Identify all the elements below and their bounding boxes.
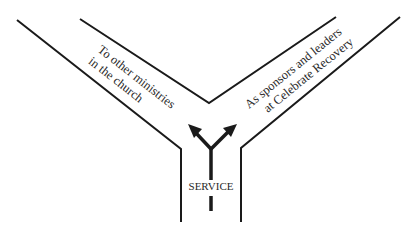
- stem-label: SERVICE: [189, 180, 234, 192]
- right-branch-label: As sponsors and leaders at Celebrate Rec…: [242, 23, 356, 123]
- fork-arrow-icon: [188, 124, 237, 211]
- right-branch-line-1: As sponsors and leaders: [242, 25, 345, 112]
- y-path-diagram: To other ministries in the church As spo…: [0, 0, 418, 237]
